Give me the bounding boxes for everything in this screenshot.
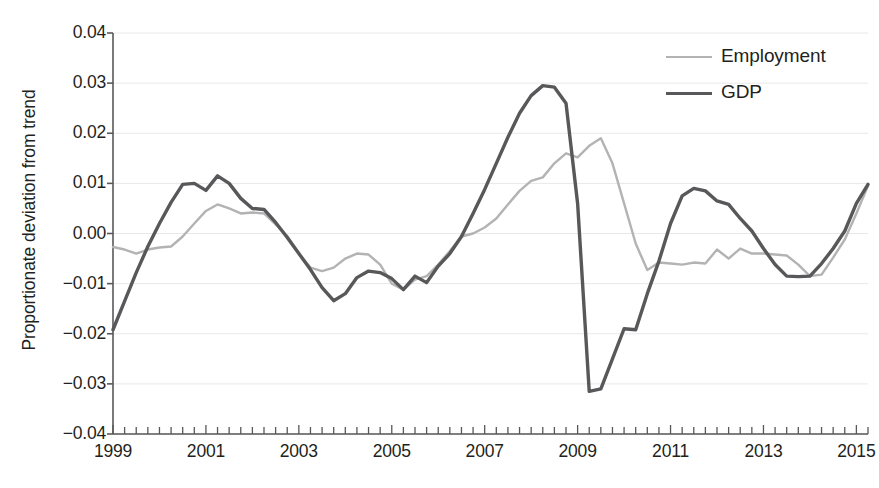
line-swatch-icon [666,50,712,62]
line-swatch-icon [666,86,712,98]
legend-item-employment: Employment [666,38,876,74]
x-tick-label: 2015 [837,443,875,461]
x-tick-label: 1999 [94,443,132,461]
x-tick-label: 2005 [373,443,411,461]
chart-legend: EmploymentGDP [666,38,876,110]
x-tick-label: 2013 [744,443,782,461]
x-tick-label: 2009 [559,443,597,461]
legend-label: Employment [721,45,826,67]
x-tick-label: 2011 [652,443,689,461]
figure-container: Proportionate deviation from trend 0.040… [0,0,879,488]
x-tick-label: 2003 [280,443,318,461]
legend-label: GDP [721,81,762,103]
legend-item-gdp: GDP [666,74,876,110]
x-tick-label: 2001 [187,443,225,461]
x-tick-label: 2007 [466,443,504,461]
